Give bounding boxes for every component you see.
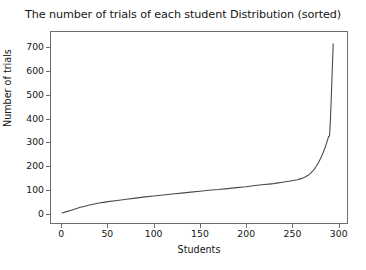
y-axis-tick-label: 200 <box>2 162 44 171</box>
y-axis-tick-label: 300 <box>2 138 44 147</box>
chart-title: The number of trials of each student Dis… <box>0 8 366 22</box>
x-axis-tick-label: 300 <box>319 229 359 238</box>
x-axis-tick-mark <box>200 224 201 228</box>
x-axis-tick-mark <box>246 224 247 228</box>
y-axis-label: Number of trials <box>3 49 13 127</box>
plot-area <box>50 31 348 224</box>
x-axis-tick-mark <box>292 224 293 228</box>
y-axis-tick-label: 0 <box>2 210 44 219</box>
line-series-path <box>62 44 333 213</box>
x-axis-tick-mark <box>339 224 340 228</box>
y-axis-tick-label: 100 <box>2 186 44 195</box>
x-axis-tick-mark <box>154 224 155 228</box>
x-axis-tick-label: 200 <box>226 229 266 238</box>
x-axis-tick-mark <box>107 224 108 228</box>
x-axis-tick-label: 150 <box>180 229 220 238</box>
x-axis-tick-label: 250 <box>272 229 312 238</box>
x-axis-tick-mark <box>61 224 62 228</box>
x-axis-label: Students <box>50 245 348 255</box>
x-axis-tick-label: 0 <box>41 229 81 238</box>
x-axis-tick-label: 50 <box>87 229 127 238</box>
x-axis-tick-label: 100 <box>134 229 174 238</box>
figure-canvas: The number of trials of each student Dis… <box>0 0 366 270</box>
line-series-svg <box>51 32 347 223</box>
